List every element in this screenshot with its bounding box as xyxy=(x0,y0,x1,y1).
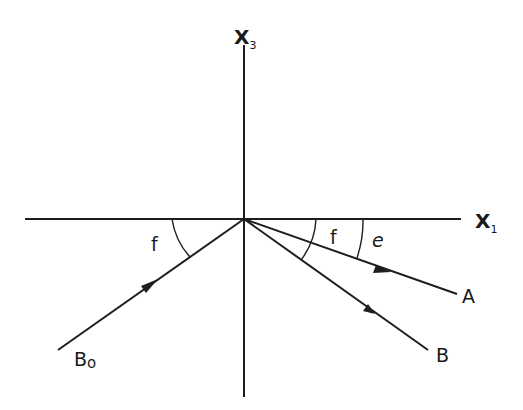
ray-a xyxy=(244,219,457,294)
angle-e-label: e xyxy=(372,229,384,251)
angle-f-right-label: f xyxy=(330,226,338,248)
ray-b0-label: Bo xyxy=(74,348,96,372)
ray-b-label: B xyxy=(436,344,449,366)
x1-axis-label: X1 xyxy=(475,209,497,236)
angle-f-left-label: f xyxy=(151,233,159,255)
ray-diagram: X3 X1 A B Bo f f e xyxy=(0,0,523,410)
ray-a-label: A xyxy=(462,285,475,307)
x3-axis-label: X3 xyxy=(234,25,256,52)
angle-arc-f-left xyxy=(172,219,190,257)
angle-arc-e xyxy=(357,219,363,258)
